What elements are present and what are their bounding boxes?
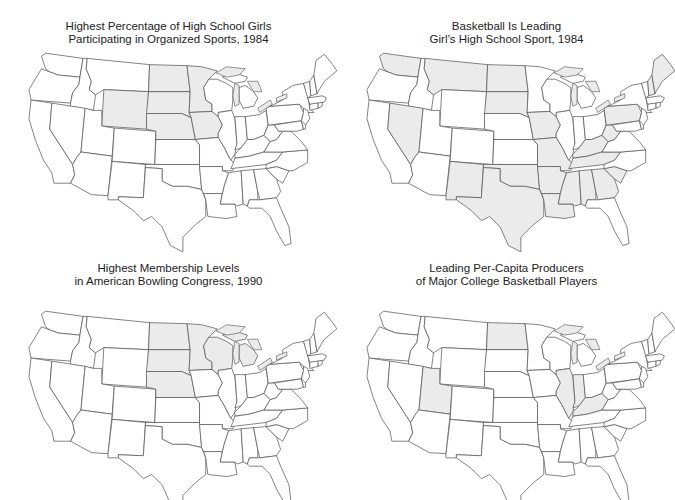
state-colorado — [450, 386, 494, 422]
state-montana — [86, 58, 149, 94]
state-north-dakota — [149, 65, 191, 92]
us-map — [0, 250, 337, 500]
state-new-mexico — [446, 161, 483, 199]
map-panel-basketball-leading: Basketball Is Leading Girl’s High School… — [338, 0, 675, 250]
state-wyoming — [102, 90, 149, 130]
great-lake — [571, 341, 577, 364]
us-map — [0, 0, 337, 250]
states-layer — [367, 53, 675, 252]
state-florida — [247, 198, 291, 246]
state-maine — [314, 312, 337, 352]
state-kansas — [493, 398, 538, 423]
state-kansas — [155, 398, 200, 423]
great-lake — [233, 341, 239, 364]
state-new-mexico — [108, 419, 145, 457]
state-kansas — [493, 140, 538, 165]
state-colorado — [112, 386, 156, 422]
states-layer — [29, 53, 337, 252]
states-layer — [29, 311, 337, 500]
state-maine — [314, 54, 337, 94]
state-colorado — [112, 128, 156, 164]
us-map — [338, 250, 675, 500]
state-north-dakota — [487, 65, 529, 92]
state-arizona — [71, 410, 113, 454]
state-new-mexico — [446, 419, 483, 457]
state-florida — [247, 456, 291, 500]
state-arizona — [409, 410, 451, 454]
state-new-mexico — [108, 161, 145, 199]
map-panel-college-basketball: Leading Per-Capita Producers of Major Co… — [338, 250, 675, 500]
great-lake — [571, 83, 577, 106]
state-montana — [424, 316, 487, 352]
state-massachusetts — [308, 96, 327, 104]
state-arizona — [409, 152, 451, 196]
state-montana — [424, 58, 487, 94]
state-wyoming — [102, 348, 149, 388]
state-wyoming — [440, 348, 487, 388]
state-montana — [86, 316, 149, 352]
us-map — [338, 0, 675, 250]
state-north-dakota — [149, 323, 191, 350]
state-wyoming — [440, 90, 487, 130]
state-massachusetts — [646, 96, 665, 104]
state-north-dakota — [487, 323, 529, 350]
state-maine — [652, 312, 675, 352]
state-colorado — [450, 128, 494, 164]
state-florida — [585, 456, 629, 500]
great-lake — [233, 83, 239, 106]
state-massachusetts — [646, 354, 665, 362]
state-maine — [652, 54, 675, 94]
state-massachusetts — [308, 354, 327, 362]
map-panel-bowling: Highest Membership Levels in American Bo… — [0, 250, 337, 500]
state-arizona — [71, 152, 113, 196]
map-panel-girls-sports: Highest Percentage of High School Girls … — [0, 0, 337, 250]
states-layer — [367, 311, 675, 500]
state-florida — [585, 198, 629, 246]
state-kansas — [155, 140, 200, 165]
